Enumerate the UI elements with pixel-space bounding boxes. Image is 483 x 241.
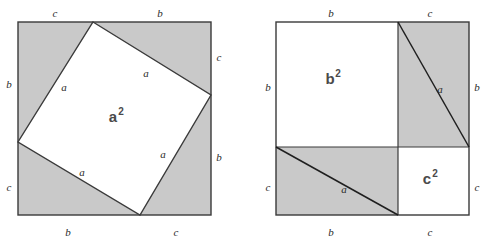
right-area-label-c-squared-exponent: 2 <box>432 168 438 179</box>
right-side-label-left-top: b <box>265 81 271 93</box>
left-side-label-top-left: c <box>53 7 58 19</box>
right-side-label-bottom-left: b <box>328 226 334 238</box>
left-side-label-right-bottom: b <box>216 151 222 163</box>
figure-canvas: a2aaaacbcbcbbcb2c2aabcbcbcbc <box>0 0 483 241</box>
left-side-label-left-bottom: c <box>7 181 12 193</box>
right-side-label-right-bottom: c <box>475 181 480 193</box>
right-side-label-top-left: b <box>328 7 334 19</box>
right-side-label-left-bottom: c <box>266 181 271 193</box>
left-side-label-top-right: b <box>157 7 163 19</box>
right-side-label-right-top: b <box>474 81 480 93</box>
left-side-label-bottom-right: c <box>174 226 179 238</box>
right-b-squared-region <box>276 22 398 147</box>
left-side-label-bottom-left: b <box>65 226 71 238</box>
right-diagonal-label-a-1: a <box>341 183 347 195</box>
right-area-label-c-squared-base: c <box>423 170 431 187</box>
pythagorean-proof-figure: a2aaaacbcbcbbcb2c2aabcbcbcbc <box>0 0 483 241</box>
left-side-label-left-top: b <box>6 78 12 90</box>
right-area-label-b-squared-base: b <box>325 70 334 87</box>
right-side-label-bottom-right: c <box>428 226 433 238</box>
left-area-label-a-squared-base: a <box>109 108 118 125</box>
right-side-label-top-right: c <box>428 7 433 19</box>
right-diagonal-label-a-0: a <box>437 83 443 95</box>
right-area-label-b-squared-exponent: 2 <box>335 68 341 79</box>
left-side-label-right-top: c <box>217 51 222 63</box>
left-inner-side-label-a-1: a <box>143 67 149 79</box>
left-inner-side-label-a-3: a <box>79 166 85 178</box>
left-area-label-a-squared-exponent: 2 <box>118 106 124 117</box>
left-inner-side-label-a-0: a <box>61 81 67 93</box>
left-inner-side-label-a-2: a <box>160 148 166 160</box>
right-c-squared-region <box>398 147 469 215</box>
